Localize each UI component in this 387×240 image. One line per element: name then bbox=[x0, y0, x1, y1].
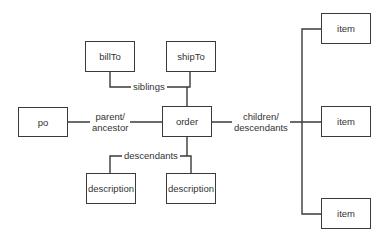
edge-label-siblings: siblings bbox=[131, 81, 167, 92]
node-billTo: billTo bbox=[85, 41, 135, 72]
node-shipTo: shipTo bbox=[166, 41, 216, 72]
node-label: po bbox=[38, 117, 49, 128]
edge-label-line1: children/ bbox=[234, 111, 288, 122]
node-label: item bbox=[337, 116, 355, 127]
node-label: description bbox=[88, 183, 134, 194]
node-order: order bbox=[162, 106, 212, 137]
edge-label-text: siblings bbox=[133, 81, 165, 92]
edge-label-parent-ancestor: parent/ ancestor bbox=[90, 111, 130, 133]
node-item-middle: item bbox=[321, 106, 371, 137]
node-item-bottom: item bbox=[321, 198, 371, 229]
edge-label-line2: ancestor bbox=[92, 122, 128, 133]
node-label: shipTo bbox=[177, 51, 204, 62]
node-label: item bbox=[337, 208, 355, 219]
node-label: billTo bbox=[99, 51, 121, 62]
edge-label-line2: descendants bbox=[234, 122, 288, 133]
node-item-top: item bbox=[321, 13, 371, 44]
edge-label-children-descendants: children/ descendants bbox=[232, 111, 290, 133]
node-label: description bbox=[168, 183, 214, 194]
node-description-left: description bbox=[86, 173, 136, 204]
edge-label-line1: parent/ bbox=[92, 111, 128, 122]
node-description-right: description bbox=[166, 173, 216, 204]
node-label: item bbox=[337, 23, 355, 34]
edge-label-descendants: descendants bbox=[122, 150, 180, 161]
node-po: po bbox=[18, 107, 68, 137]
edge-label-text: descendants bbox=[124, 150, 178, 161]
node-label: order bbox=[176, 116, 198, 127]
